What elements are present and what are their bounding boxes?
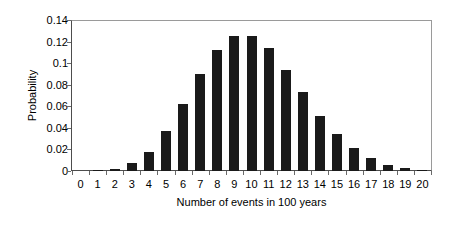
bar [400, 168, 410, 171]
bar [127, 163, 137, 171]
x-axis-tick-mark [157, 171, 158, 175]
x-axis-tick-label: 5 [157, 176, 174, 192]
x-axis-tick-mark [175, 171, 176, 175]
x-axis-tick-label: 0 [72, 176, 89, 192]
bar [144, 152, 154, 171]
bar [264, 48, 274, 171]
y-axis-tick-label: 0.02 [26, 144, 68, 155]
x-axis-tick-mark [431, 171, 432, 175]
bar [315, 116, 325, 171]
x-axis-tick-mark [72, 171, 73, 175]
y-axis-tick-label: 0.04 [26, 122, 68, 133]
x-axis-tick-label: 6 [175, 176, 192, 192]
y-axis-tick-label: 0.1 [26, 58, 68, 69]
x-axis-tick-label: 15 [328, 176, 345, 192]
y-axis-tick-label: 0.08 [26, 79, 68, 90]
x-axis-tick-label: 12 [277, 176, 294, 192]
bar [93, 170, 103, 171]
x-axis-tick-mark [260, 171, 261, 175]
bar [349, 148, 359, 171]
x-axis-tick-label: 9 [226, 176, 243, 192]
bar [417, 170, 427, 171]
y-axis-tick-mark [67, 149, 71, 150]
bar [178, 104, 188, 171]
bar [110, 169, 120, 171]
bar [332, 134, 342, 171]
x-axis-tick-mark [89, 171, 90, 175]
y-axis-tick-mark [67, 20, 71, 21]
x-axis-tick-label: 19 [397, 176, 414, 192]
x-axis-tick-label: 18 [380, 176, 397, 192]
bar [298, 92, 308, 171]
x-axis-tick-label: 20 [414, 176, 431, 192]
bar [161, 131, 171, 171]
y-axis-tick-mark [67, 106, 71, 107]
x-axis-tick-mark [363, 171, 364, 175]
poisson-probability-bar-chart: Probability 00.020.040.060.080.10.120.14… [0, 0, 456, 231]
y-axis-tick-label: 0.06 [26, 101, 68, 112]
x-axis-tick-label: 16 [346, 176, 363, 192]
x-axis-tick-mark [397, 171, 398, 175]
bar [247, 36, 257, 171]
x-axis-tick-label: 2 [106, 176, 123, 192]
x-axis-tick-mark [294, 171, 295, 175]
y-axis-tick-labels: 00.020.040.060.080.10.120.14 [26, 20, 68, 171]
y-axis-tick-label: 0.14 [26, 15, 68, 26]
x-axis-tick-mark [346, 171, 347, 175]
y-axis-tick-label: 0.12 [26, 36, 68, 47]
x-axis-tick-mark [226, 171, 227, 175]
y-axis-tick-mark [67, 63, 71, 64]
x-axis-tick-label: 7 [192, 176, 209, 192]
x-axis-title: Number of events in 100 years [71, 196, 432, 208]
bar [229, 36, 239, 171]
bars-layer [72, 20, 431, 171]
bar [195, 74, 205, 171]
y-axis-tick-mark [67, 42, 71, 43]
x-axis-tick-mark [140, 171, 141, 175]
x-axis-tick-mark [123, 171, 124, 175]
x-axis-tick-mark [209, 171, 210, 175]
x-axis-tick-mark [414, 171, 415, 175]
x-axis-tick-label: 13 [294, 176, 311, 192]
y-axis-tick-mark [67, 85, 71, 86]
x-axis-tick-mark [106, 171, 107, 175]
x-axis-tick-mark [380, 171, 381, 175]
x-axis-tick-label: 3 [123, 176, 140, 192]
x-axis-tick-labels: 01234567891011121314151617181920 [72, 176, 431, 192]
bar [383, 165, 393, 171]
y-axis-tick-mark [67, 171, 71, 172]
x-axis-tick-mark [311, 171, 312, 175]
x-axis-tick-label: 14 [311, 176, 328, 192]
x-axis-tick-label: 4 [140, 176, 157, 192]
bar [366, 158, 376, 171]
x-axis-tick-label: 11 [260, 176, 277, 192]
x-axis-tick-label: 8 [209, 176, 226, 192]
x-axis-tick-mark [277, 171, 278, 175]
x-axis-tick-label: 17 [363, 176, 380, 192]
y-axis-tick-mark [67, 128, 71, 129]
x-axis-tick-mark [192, 171, 193, 175]
bar [281, 70, 291, 171]
y-axis-tick-label: 0 [26, 166, 68, 177]
x-axis-tick-mark [328, 171, 329, 175]
x-axis-tick-label: 10 [243, 176, 260, 192]
bar [212, 50, 222, 171]
x-axis-tick-label: 1 [89, 176, 106, 192]
x-axis-tick-mark [243, 171, 244, 175]
